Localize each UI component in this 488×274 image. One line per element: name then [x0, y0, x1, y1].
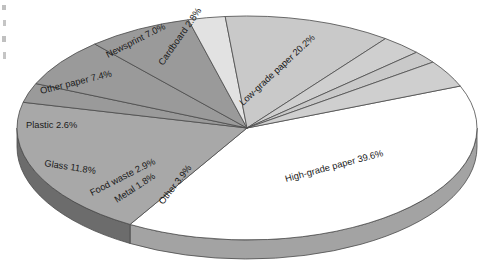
scan-edge-marks [2, 5, 6, 59]
pie-chart-svg: High-grade paper 39.6%Low-grade paper 20… [0, 0, 488, 274]
pie-top-face [17, 16, 477, 240]
pie-chart-figure: High-grade paper 39.6%Low-grade paper 20… [0, 0, 488, 274]
pie-label-plastic: Plastic 2.6% [26, 120, 77, 130]
